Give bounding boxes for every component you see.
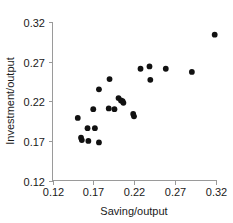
data-point xyxy=(92,125,98,131)
data-point xyxy=(147,63,153,69)
data-point xyxy=(189,69,195,75)
scatter-plot-svg: 0.120.170.220.270.32 0.120.170.220.270.3… xyxy=(0,0,233,223)
data-point xyxy=(147,77,153,83)
y-axis-ticks xyxy=(49,23,53,182)
y-tick-label: 0.22 xyxy=(24,96,45,108)
data-point xyxy=(85,138,91,144)
y-tick-label: 0.17 xyxy=(24,136,45,148)
data-point xyxy=(107,76,113,82)
data-point xyxy=(96,86,102,92)
x-tick-label: 0.12 xyxy=(43,186,64,198)
data-point xyxy=(212,32,218,38)
x-tick-label: 0.17 xyxy=(83,186,104,198)
data-points-group xyxy=(75,32,218,146)
x-axis-tick-labels: 0.120.170.220.270.32 xyxy=(43,186,227,198)
data-point xyxy=(85,125,91,131)
data-point xyxy=(121,100,127,106)
y-axis-title: Investment/output xyxy=(4,57,16,144)
data-point xyxy=(79,137,85,143)
data-point xyxy=(138,66,144,72)
data-point xyxy=(131,113,137,119)
y-tick-label: 0.32 xyxy=(24,17,45,29)
y-tick-label: 0.27 xyxy=(24,57,45,69)
data-point xyxy=(163,66,169,72)
x-tick-label: 0.22 xyxy=(124,186,145,198)
scatter-chart-figure: 0.120.170.220.270.32 0.120.170.220.270.3… xyxy=(0,0,233,223)
data-point xyxy=(106,105,112,111)
y-tick-label: 0.12 xyxy=(24,176,45,188)
data-point xyxy=(112,106,118,112)
x-axis-title: Saving/output xyxy=(100,205,167,217)
data-point xyxy=(96,140,102,146)
x-axis-ticks xyxy=(54,181,217,185)
x-tick-label: 0.27 xyxy=(165,186,186,198)
data-point xyxy=(90,106,96,112)
y-axis-tick-labels: 0.120.170.220.270.32 xyxy=(24,17,45,188)
x-tick-label: 0.32 xyxy=(206,186,227,198)
data-point xyxy=(75,115,81,121)
